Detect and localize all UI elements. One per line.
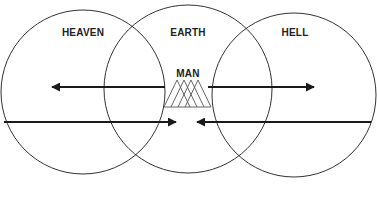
man-triangles	[164, 80, 211, 107]
heaven-label: HEAVEN	[62, 27, 104, 38]
man-label: MAN	[176, 68, 199, 79]
hell-label: HELL	[282, 27, 309, 38]
earth-label: EARTH	[170, 27, 205, 38]
